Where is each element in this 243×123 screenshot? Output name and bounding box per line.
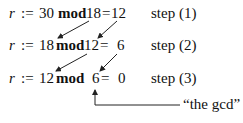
gcd-pointer-arrow xyxy=(95,90,180,105)
arrow-divisor-to-dividend-1 xyxy=(58,21,89,38)
arrow-remainder-to-divisor-2 xyxy=(100,54,117,71)
arrow-remainder-to-divisor-1 xyxy=(98,21,117,38)
arrow-divisor-to-dividend-2 xyxy=(56,54,87,71)
gcd-annotation: “the gcd” xyxy=(183,96,240,113)
